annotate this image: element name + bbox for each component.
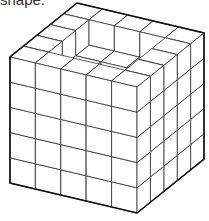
cube-stack-diagram: [0, 0, 209, 221]
